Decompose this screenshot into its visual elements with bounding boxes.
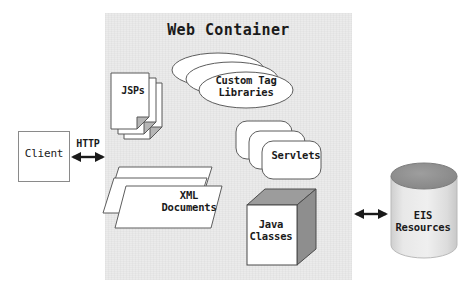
eis-connector-arrow: [354, 209, 388, 219]
client-box: [18, 131, 70, 182]
eis-resources-cylinder: [391, 163, 457, 258]
http-connector-arrow: [71, 152, 105, 162]
diagram-shapes-layer: [0, 0, 475, 294]
servlets-rounded-rect-stack: [236, 121, 321, 179]
xml-documents-parallelogram-stack: [103, 167, 222, 228]
custom-tag-libraries-ellipse-stack: [172, 53, 293, 108]
jsps-document-stack: [111, 73, 162, 139]
java-classes-cube: [247, 189, 316, 265]
